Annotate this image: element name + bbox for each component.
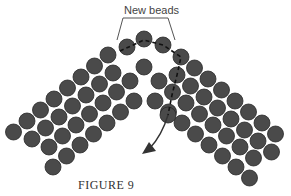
bead-center [136,59,152,75]
bead-right [165,84,181,100]
bead-left [24,131,40,147]
bead-right [215,148,231,164]
bead-right [174,115,190,131]
bead-right [223,111,239,127]
bead-left [38,120,54,136]
bead-left [46,91,62,107]
bead-right [196,89,212,105]
bead-right [187,60,203,76]
bead-left [19,113,35,129]
bead-left [55,128,71,144]
bead-right [268,126,284,142]
bead-right [232,139,248,155]
new-bead [155,37,171,53]
bead-right [241,104,257,120]
bead-left [68,117,84,133]
bead-right [242,170,258,186]
bead-left [105,65,121,81]
bead-right [205,117,221,133]
bead-left [126,93,142,109]
bead-right [227,93,243,109]
bead-left [82,106,98,122]
bead-right [214,82,230,98]
bead-left [86,126,102,142]
bead-right [246,150,262,166]
bead-left [92,76,108,92]
bead-right [192,106,208,122]
new-bead [136,31,152,47]
bead-right [151,73,167,89]
bead-left [113,104,129,120]
bead-left [45,159,61,175]
bead-right [200,71,216,87]
bead-right [237,122,253,138]
bead-right [210,100,226,116]
bead-right [188,126,204,142]
bead-left [95,95,111,111]
bead-right [147,93,163,109]
bead-left [65,98,81,114]
bead-right [183,78,199,94]
bead-left [87,58,103,74]
bead-right [173,49,189,65]
bead-right [250,133,266,149]
bead-right [219,128,235,144]
bead-left [99,115,115,131]
figure-caption: FIGURE 9 [78,178,134,193]
bead-left [51,109,67,125]
bead-left [59,148,75,164]
bead-left [78,87,94,103]
bead-right [201,137,217,153]
bead-left [109,84,125,100]
bead-left [100,47,116,63]
bead-left [60,80,76,96]
bead-left [122,73,138,89]
bead-left [33,102,49,118]
bead-right [228,159,244,175]
bead-right [264,144,280,160]
bead-right [254,115,270,131]
bead-left [72,137,88,153]
bead-left [6,124,22,140]
bead-left [41,139,57,155]
new-beads-label: New beads [124,4,179,16]
bead-left [73,69,89,85]
bead-right [178,95,194,111]
bead-diagram [0,0,291,196]
